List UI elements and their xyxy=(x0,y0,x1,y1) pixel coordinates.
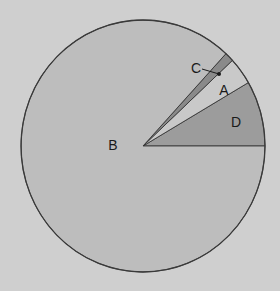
slice-label-d: D xyxy=(231,114,241,130)
slice-label-c: C xyxy=(191,60,201,76)
pie-slices xyxy=(21,20,265,272)
pie-chart xyxy=(0,0,280,291)
label-c-leader-dot xyxy=(217,72,221,76)
slice-label-a: A xyxy=(219,82,228,98)
slice-label-b: B xyxy=(108,137,117,153)
